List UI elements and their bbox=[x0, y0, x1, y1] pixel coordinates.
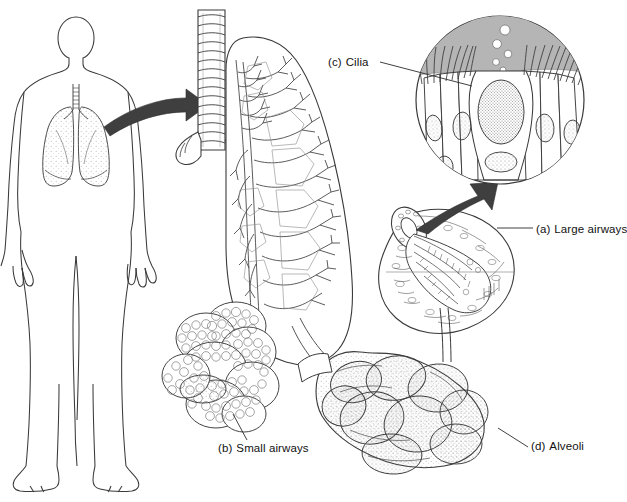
label-small-airways-tag: (b) bbox=[218, 442, 232, 454]
label-large-airways-tag: (a) bbox=[536, 223, 550, 235]
label-cilia-text: Cilia bbox=[346, 56, 369, 68]
label-alveoli: (d)Alveoli bbox=[531, 440, 584, 452]
alveoli-cluster bbox=[298, 351, 488, 476]
label-large-airways: (a)Large airways bbox=[536, 223, 627, 235]
large-airway-cutaway bbox=[379, 201, 515, 362]
label-alveoli-text: Alveoli bbox=[549, 440, 584, 452]
label-cilia-tag: (c) bbox=[328, 56, 342, 68]
label-alveoli-tag: (d) bbox=[531, 440, 545, 452]
label-large-airways-text: Large airways bbox=[554, 223, 627, 235]
cilia-epithelium-inset bbox=[401, 16, 592, 184]
label-cilia: (c)Cilia bbox=[328, 56, 369, 68]
body-lungs bbox=[43, 84, 110, 186]
leader-alveoli bbox=[498, 428, 528, 447]
label-small-airways: (b)Small airways bbox=[218, 442, 309, 454]
label-small-airways-text: Small airways bbox=[236, 442, 308, 454]
small-airways-cluster bbox=[162, 302, 279, 432]
arrow-body-to-trachea bbox=[104, 89, 208, 136]
